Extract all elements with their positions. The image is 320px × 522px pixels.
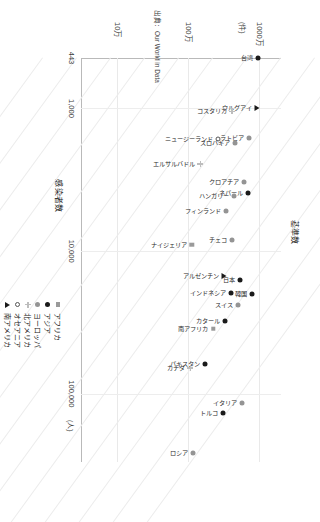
legend-item[interactable]: 南アメリカ (3, 300, 13, 348)
data-point[interactable] (239, 400, 244, 405)
marker-circle (233, 141, 238, 146)
data-point[interactable] (229, 108, 235, 114)
data-point-label: ロシア (170, 450, 188, 456)
ratio-guide-line (0, 57, 145, 522)
legend: アフリカアジアヨーロッパ北アメリカオセアニア南アメリカ (3, 300, 63, 348)
ratio-guide-line (0, 57, 311, 522)
data-point[interactable] (237, 278, 242, 283)
data-point[interactable] (230, 237, 235, 242)
data-point[interactable] (190, 242, 195, 247)
data-point[interactable] (187, 365, 193, 371)
x-tick-label: 1,000 (67, 99, 76, 118)
data-point-label: 台湾 (241, 55, 253, 61)
x-axis-title: 感染者数 (54, 179, 65, 213)
gridline-vertical (81, 394, 281, 395)
gridline-horizontal (117, 58, 118, 462)
ratio-guide-line (0, 57, 77, 522)
legend-marker (56, 300, 61, 309)
gridline-horizontal (259, 58, 260, 462)
marker-circle (220, 410, 225, 415)
marker-circle (46, 302, 51, 307)
data-point-label: カタール (196, 318, 220, 324)
data-point[interactable] (228, 290, 233, 295)
data-point[interactable] (242, 180, 247, 185)
y-tick-label: 10万 (113, 22, 124, 37)
data-point[interactable] (246, 190, 251, 195)
data-point[interactable] (250, 292, 255, 297)
legend-item[interactable]: 北アメリカ (23, 300, 33, 348)
x-tick-label: 443 (67, 52, 76, 65)
marker-circle (224, 208, 229, 213)
legend-item[interactable]: ヨーロッパ (33, 300, 43, 348)
data-point[interactable] (256, 56, 261, 61)
marker-circle (36, 302, 41, 307)
legend-item[interactable]: アジア (43, 300, 53, 348)
data-point-label: ナイジェリア (151, 242, 187, 248)
data-point[interactable] (197, 161, 203, 167)
legend-marker (25, 300, 31, 309)
data-point-label: コスタリカ (197, 108, 227, 114)
data-point-label: トルコ (200, 410, 218, 416)
marker-triangle (6, 302, 11, 308)
legend-item[interactable]: アフリカ (53, 300, 63, 348)
data-point[interactable] (224, 208, 229, 213)
data-point-label: インドネシア (190, 290, 226, 296)
legend-item[interactable]: オセアニア (13, 300, 23, 348)
data-point-label: スイス (215, 302, 233, 308)
data-point-label: エルサルバドル (153, 161, 195, 167)
plot-area: 台湾ウルグアイコスタリカラトビアスロバキアニュージーランドクロアチアネパールハン… (81, 58, 281, 462)
data-point-label: カナダ (167, 365, 185, 371)
data-point-label: ニュージーランド (165, 136, 213, 142)
data-point[interactable] (216, 137, 221, 142)
data-point[interactable] (246, 135, 251, 140)
legend-label: 北アメリカ (23, 313, 33, 348)
data-point-label: イタリア (213, 400, 237, 406)
x-tick-label: 100,000 (67, 380, 76, 407)
marker-circle (230, 237, 235, 242)
x-axis-unit: (人) (66, 420, 76, 432)
data-point-label: クロアチア (209, 179, 239, 185)
y-axis-unit: (件) (238, 22, 248, 34)
y-tick-label: 100万 (183, 22, 194, 42)
legend-label: 南アメリカ (3, 313, 13, 348)
data-point[interactable] (233, 141, 238, 146)
data-point-label: チェコ (209, 237, 227, 243)
marker-square (56, 302, 61, 307)
marker-circle (256, 56, 261, 61)
legend-marker (16, 300, 21, 309)
gridline-horizontal (188, 58, 189, 462)
marker-plus (25, 302, 31, 308)
data-point[interactable] (220, 410, 225, 415)
marker-circle (191, 451, 196, 456)
data-point[interactable] (222, 319, 227, 324)
data-point[interactable] (255, 105, 260, 111)
data-point-label: 韓国 (235, 291, 247, 297)
data-point[interactable] (191, 451, 196, 456)
marker-square (211, 327, 216, 332)
gridline-vertical (81, 251, 281, 252)
data-point-label: ハンガリー (199, 193, 229, 199)
marker-circle (237, 278, 242, 283)
marker-circle (232, 193, 237, 198)
legend-label: アフリカ (53, 313, 63, 341)
marker-circle-open (216, 137, 221, 142)
marker-triangle (255, 105, 260, 111)
legend-marker (46, 300, 51, 309)
data-point-label: 南アフリカ (178, 326, 208, 332)
ratio-guide-line (0, 57, 43, 522)
legend-label: ヨーロッパ (33, 313, 43, 348)
marker-circle (246, 190, 251, 195)
data-point[interactable] (232, 193, 237, 198)
data-point[interactable] (203, 362, 208, 367)
x-tick-label: 10,000 (67, 240, 76, 263)
data-point-label: アルゼンチン (183, 273, 219, 279)
marker-circle (235, 303, 240, 308)
marker-plus (187, 365, 193, 371)
chart-stage: 出典：Our World in Data 感染者数 基準数 台湾ウルグアイコスタ… (0, 0, 311, 522)
x-axis-line (81, 58, 82, 462)
data-point[interactable] (235, 303, 240, 308)
marker-triangle (221, 273, 226, 279)
data-point[interactable] (221, 273, 226, 279)
data-point[interactable] (211, 327, 216, 332)
y-tick-label: 1000万 (254, 22, 265, 46)
